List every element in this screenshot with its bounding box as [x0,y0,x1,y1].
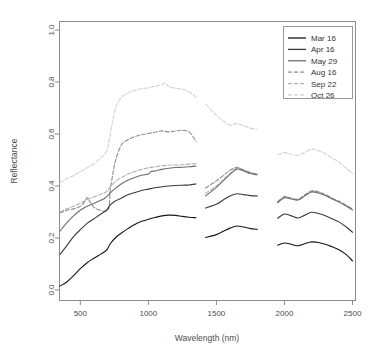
y-tick-label: 1.0 [47,24,56,36]
y-tick-label: 0.8 [47,76,56,88]
x-axis-title: Wavelength (nm) [175,333,240,343]
legend-label: Apr 16 [311,45,335,54]
legend-label: Mar 16 [311,34,336,43]
legend-label: May 29 [311,57,338,66]
series-line [60,130,353,213]
spectral-reflectance-figure: 5001000150020002500 0.00.20.40.60.81.0 W… [0,0,379,355]
legend-label: Sep 22 [311,80,337,89]
legend-label: Oct 26 [311,91,335,100]
y-tick-label: 0.0 [47,284,56,296]
legend-label: Aug 16 [311,68,337,77]
data-series-group [60,82,353,286]
x-tick-label: 2000 [276,309,294,318]
y-tick-label: 0.4 [47,180,56,192]
series-line [60,166,353,231]
x-axis-ticks: 5001000150020002500 [74,301,362,318]
x-tick-label: 2500 [344,309,362,318]
y-tick-label: 0.6 [47,128,56,140]
series-line [60,184,353,254]
y-tick-label: 0.2 [47,232,56,244]
x-tick-label: 1000 [139,309,157,318]
x-tick-label: 500 [74,309,88,318]
y-axis-ticks: 0.00.20.40.60.81.0 [47,24,60,296]
x-tick-label: 1500 [208,309,226,318]
legend: Mar 16Apr 16May 29Aug 16Sep 22Oct 26 [284,27,353,101]
series-line [60,215,353,286]
y-axis-title: Reflectance [9,138,19,183]
chart-canvas: 5001000150020002500 0.00.20.40.60.81.0 W… [0,0,379,355]
